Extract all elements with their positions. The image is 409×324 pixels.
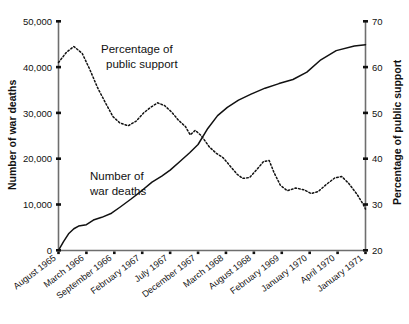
series-war-deaths-line xyxy=(59,45,366,251)
right-tick-label-40: 40 xyxy=(372,153,383,164)
right-tick-label-60: 60 xyxy=(372,62,383,73)
x-tick-mark xyxy=(225,252,228,255)
right-tick-label-30: 30 xyxy=(372,199,383,210)
left-axis-title: Number of war deaths xyxy=(6,80,18,190)
annotation-war-deaths: Number of war deaths xyxy=(89,170,147,197)
chart-container: 50,000 40,000 30,000 20,000 10,000 0 70 … xyxy=(0,0,409,324)
annotation-war-deaths-line2: war deaths xyxy=(89,185,147,197)
right-axis-title: Percentage of public support xyxy=(391,59,403,205)
right-tick-label-50: 50 xyxy=(372,108,383,119)
x-tick-mark xyxy=(85,252,88,255)
left-axis-ticks: 50,000 40,000 30,000 20,000 10,000 0 xyxy=(23,16,61,256)
x-tick-mark xyxy=(113,252,116,255)
left-tick-label-40000: 40,000 xyxy=(23,62,52,73)
left-tick-label-30000: 30,000 xyxy=(23,108,52,119)
x-tick-mark xyxy=(169,252,172,255)
x-tick-mark xyxy=(308,252,311,255)
x-axis-ticks xyxy=(57,252,367,255)
left-tick-label-50000: 50,000 xyxy=(23,16,52,27)
x-tick-mark xyxy=(57,252,60,255)
x-tick-mark xyxy=(197,252,200,255)
dual-axis-line-chart: 50,000 40,000 30,000 20,000 10,000 0 70 … xyxy=(0,0,409,324)
right-tick-label-70: 70 xyxy=(372,16,383,27)
annotation-war-deaths-line1: Number of xyxy=(90,170,144,182)
x-tick-mark xyxy=(336,252,339,255)
annotation-public-support-line1: Percentage of xyxy=(101,43,173,55)
x-tick-mark xyxy=(364,252,367,255)
annotation-public-support: Percentage of public support xyxy=(101,43,178,70)
x-tick-mark xyxy=(253,252,256,255)
x-tick-mark xyxy=(280,252,283,255)
left-tick-label-20000: 20,000 xyxy=(23,153,52,164)
right-tick-label-20: 20 xyxy=(372,245,383,256)
annotation-public-support-line2: public support xyxy=(106,58,178,70)
x-tick-mark xyxy=(141,252,144,255)
x-axis-labels: August 1965March 1966September 1966Febru… xyxy=(11,253,364,301)
left-tick-label-10000: 10,000 xyxy=(23,199,52,210)
